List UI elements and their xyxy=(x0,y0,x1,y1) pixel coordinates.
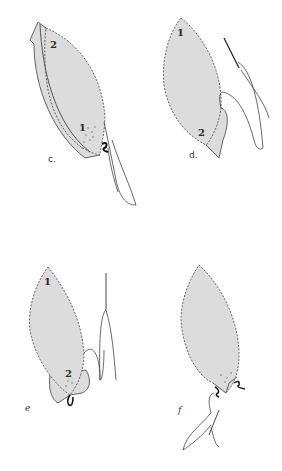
label-2: 2 xyxy=(50,39,57,50)
caption-d: d. xyxy=(189,150,198,160)
panel-f: f xyxy=(141,235,282,471)
panel-f-drawing: f xyxy=(141,235,282,471)
panel-e: 1 2 e xyxy=(0,235,141,471)
panel-c-drawing: 2 1 c. xyxy=(0,0,141,235)
caption-f: f xyxy=(177,405,183,415)
panel-c: 2 1 c. xyxy=(0,0,141,235)
panel-d-drawing: 1 2 d. xyxy=(141,0,282,235)
panel-d: 1 2 d. xyxy=(141,0,282,235)
label-1: 1 xyxy=(79,122,86,133)
caption-e: e xyxy=(25,403,30,413)
label-1: 1 xyxy=(177,27,184,38)
label-2: 2 xyxy=(198,127,205,138)
label-2: 2 xyxy=(65,368,72,379)
panel-e-drawing: 1 2 e xyxy=(0,235,141,471)
caption-c: c. xyxy=(48,154,56,164)
label-1: 1 xyxy=(44,276,51,287)
